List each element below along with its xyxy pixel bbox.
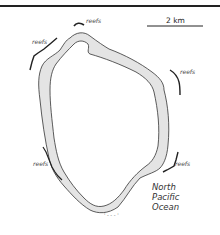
reef-label-west: reefs xyxy=(33,160,48,167)
reef-east-mark xyxy=(170,70,180,95)
bottom-marker-glyph: ' - - - ' xyxy=(104,212,119,218)
reef-label-east: reefs xyxy=(180,68,195,75)
map-graphic: ' - - - ' xyxy=(0,0,220,235)
reef-north-mark xyxy=(74,23,84,26)
scale-bar-label: 2 km xyxy=(166,16,185,25)
reef-label-southeast: reefs xyxy=(175,160,190,167)
ocean-label: North Pacific Ocean xyxy=(152,182,180,212)
reef-label-north: reefs xyxy=(86,17,101,24)
ocean-label-line-3: Ocean xyxy=(152,202,180,212)
ocean-label-line-2: Pacific xyxy=(152,192,180,202)
reef-label-northwest: reefs xyxy=(32,38,47,45)
ocean-label-line-1: North xyxy=(152,182,180,192)
atoll-map: ' - - - ' 2 km reefs reefs reefs reefs r… xyxy=(0,0,220,235)
